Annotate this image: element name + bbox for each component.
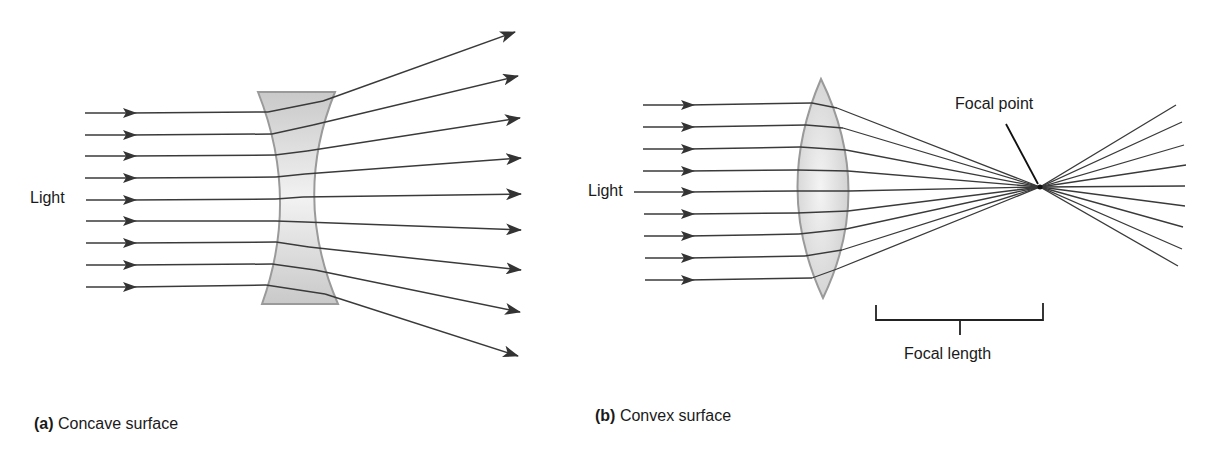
focal-length-label: Focal length xyxy=(904,345,991,363)
caption-a: (a) Concave surface xyxy=(34,415,178,433)
caption-a-text: Concave surface xyxy=(58,415,178,432)
focal-point-marker xyxy=(1038,185,1043,190)
panel-a-concave xyxy=(85,32,521,356)
focal-length-bracket xyxy=(876,303,1043,335)
caption-b-letter: (b) xyxy=(595,407,615,424)
panel-b-convex xyxy=(634,79,1186,335)
caption-a-letter: (a) xyxy=(34,415,54,432)
caption-b: (b) Convex surface xyxy=(595,407,731,425)
diverging-rays-a xyxy=(303,32,521,356)
converging-rays-b xyxy=(837,105,1186,269)
light-label-b: Light xyxy=(588,182,623,200)
light-label-a: Light xyxy=(30,189,65,207)
caption-b-text: Convex surface xyxy=(620,407,731,424)
incident-rays-a xyxy=(85,112,276,287)
incident-rays-b xyxy=(634,103,812,280)
focal-point-label: Focal point xyxy=(955,95,1033,113)
optics-diagram xyxy=(0,0,1212,453)
convex-lens xyxy=(797,79,848,298)
